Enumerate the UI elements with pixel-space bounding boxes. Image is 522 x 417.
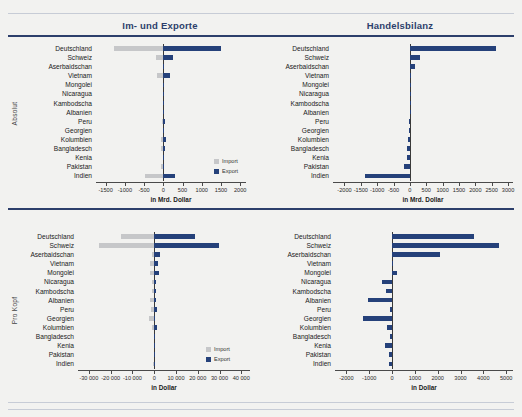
x-axis-tick <box>415 371 416 374</box>
bar-bal <box>390 334 392 339</box>
category-label: Bangladesch <box>0 332 331 341</box>
chart-panel-prokopf-handelsbilanz: DeutschlandSchweizAserbaidschanVietnamMo… <box>0 232 522 399</box>
bar-bal <box>408 137 410 142</box>
x-axis-tick <box>506 371 507 374</box>
category-label: Georgien <box>0 314 331 323</box>
plot-area <box>335 232 513 369</box>
bar-bal <box>363 316 392 321</box>
category-label: Kenia <box>0 341 331 350</box>
bar-row <box>333 144 513 153</box>
bar-row <box>335 350 513 359</box>
x-axis-tick <box>346 371 347 374</box>
bar-bal <box>410 110 411 115</box>
category-label: Albanien <box>0 296 331 305</box>
bar-row <box>333 153 513 162</box>
x-axis-tick-label: 3000 <box>488 187 522 193</box>
bar-bal <box>407 146 410 151</box>
bar-row <box>333 126 513 135</box>
category-label: Georgien <box>0 126 329 135</box>
bar-bal <box>368 298 392 303</box>
bar-row <box>333 53 513 62</box>
x-axis-tick <box>361 183 362 186</box>
category-label: Aserbaidschan <box>0 62 329 71</box>
x-axis-tick-label: 5000 <box>486 375 522 381</box>
divider-top <box>8 13 514 14</box>
category-label: Kenia <box>0 153 329 162</box>
divider-bottom-2 <box>8 409 514 410</box>
bar-row <box>335 341 513 350</box>
bar-bal <box>385 343 392 348</box>
bar-row <box>335 305 513 314</box>
column-header-left: Im- und Exporte <box>60 20 260 31</box>
bar-bal <box>382 280 392 285</box>
x-axis-tick <box>410 183 411 186</box>
bar-bal <box>409 128 410 133</box>
category-label: Schweiz <box>0 241 331 250</box>
category-label: Pakistan <box>0 162 329 171</box>
category-label: Mongolei <box>0 268 331 277</box>
bar-row <box>335 241 513 250</box>
x-axis-tick <box>461 371 462 374</box>
divider-header <box>8 35 514 37</box>
bar-row <box>333 71 513 80</box>
category-label: Kolumbien <box>0 323 331 332</box>
bar-row <box>333 108 513 117</box>
x-axis-tick <box>438 371 439 374</box>
x-axis-tick <box>369 371 370 374</box>
bar-row <box>335 232 513 241</box>
bar-row <box>335 332 513 341</box>
x-axis-title: in Dollar <box>335 384 513 391</box>
x-axis-tick <box>483 371 484 374</box>
bar-row <box>333 171 513 180</box>
bar-bal <box>392 252 440 257</box>
category-label: Kolumbien <box>0 135 329 144</box>
category-label: Kambodscha <box>0 287 331 296</box>
category-label: Vietnam <box>0 259 331 268</box>
bar-row <box>335 259 513 268</box>
bar-row <box>333 80 513 89</box>
category-label: Peru <box>0 117 329 126</box>
bar-bal <box>386 289 392 294</box>
category-axis-labels: DeutschlandSchweizAserbaidschanVietnamMo… <box>0 232 331 368</box>
category-label: Mongolei <box>0 80 329 89</box>
bar-bal <box>389 352 392 357</box>
bar-row <box>335 314 513 323</box>
x-axis-line <box>335 370 513 371</box>
category-label: Peru <box>0 305 331 314</box>
bar-bal <box>390 307 393 312</box>
bar-bal <box>410 101 411 106</box>
x-axis-tick <box>377 183 378 186</box>
category-axis-labels: DeutschlandSchweizAserbaidschanVietnamMo… <box>0 44 329 180</box>
bar-bal <box>410 83 411 88</box>
bar-bal <box>410 46 496 51</box>
bar-bal <box>392 271 397 276</box>
bar-row <box>333 135 513 144</box>
category-label: Vietnam <box>0 71 329 80</box>
bar-row <box>335 268 513 277</box>
bar-row <box>335 323 513 332</box>
column-header-right: Handelsbilanz <box>300 20 500 31</box>
bar-row <box>335 277 513 286</box>
category-label: Bangladesch <box>0 144 329 153</box>
bar-bal <box>410 73 411 78</box>
category-label: Kambodscha <box>0 99 329 108</box>
bar-row <box>335 287 513 296</box>
x-axis-tick <box>394 183 395 186</box>
bar-bal <box>404 164 410 169</box>
x-axis-tick <box>459 183 460 186</box>
bar-row <box>335 359 513 368</box>
x-axis-tick <box>475 183 476 186</box>
bar-bal <box>410 92 411 97</box>
bar-bal <box>387 325 392 330</box>
infographic-page: Im- und Exporte Handelsbilanz Absolut Pr… <box>0 0 522 417</box>
category-label: Albanien <box>0 108 329 117</box>
category-label: Pakistan <box>0 350 331 359</box>
bar-bal <box>409 119 410 124</box>
x-axis-tick <box>508 183 509 186</box>
bar-bal <box>365 174 410 179</box>
x-axis-tick <box>426 183 427 186</box>
chart-panel-absolut-handelsbilanz: DeutschlandSchweizAserbaidschanVietnamMo… <box>0 44 522 211</box>
category-label: Aserbaidschan <box>0 250 331 259</box>
category-label: Nicaragua <box>0 89 329 98</box>
bar-bal <box>392 234 474 239</box>
